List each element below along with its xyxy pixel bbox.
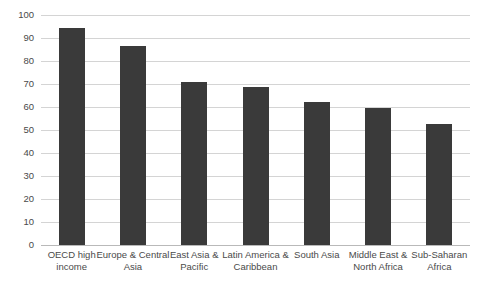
y-axis-tick-label: 60 [23,102,34,112]
y-axis-tick-label: 80 [23,56,34,66]
x-axis-tick-label: Sub-Saharan Africa [402,249,476,273]
bar [243,87,269,245]
bar-chart: 0102030405060708090100 OECD high incomeE… [0,0,484,293]
y-axis-tick-label: 50 [23,125,34,135]
y-axis-tick-label: 90 [23,33,34,43]
bar [181,82,207,245]
bar [120,46,146,245]
bar [304,102,330,245]
y-axis-tick-label: 10 [23,217,34,227]
x-axis: OECD high incomeEurope & Central AsiaEas… [41,249,470,293]
gridline [41,245,470,246]
bars-layer [41,15,470,245]
bar [426,124,452,245]
y-axis-tick-label: 20 [23,194,34,204]
y-axis-tick-label: 30 [23,171,34,181]
bar [365,108,391,245]
bar [59,28,85,245]
y-axis-tick-label: 70 [23,79,34,89]
y-axis-tick-label: 40 [23,148,34,158]
y-axis-tick-label: 100 [18,10,34,20]
y-axis-tick-label: 0 [29,240,34,250]
